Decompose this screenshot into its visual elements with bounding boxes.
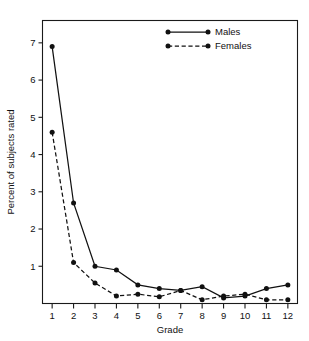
data-point-females-grade-3 xyxy=(93,281,98,286)
legend-marker-start-females xyxy=(166,44,171,49)
figure-container: 1234567 123456789101112 MalesFemales Gra… xyxy=(0,0,309,341)
series-line-females xyxy=(52,132,288,300)
data-point-females-grade-9 xyxy=(221,294,226,299)
data-series-group xyxy=(50,44,291,302)
x-axis-title: Grade xyxy=(157,324,183,335)
y-tick-label: 2 xyxy=(30,223,35,234)
y-axis-title: Percent of subjects rated xyxy=(5,109,16,214)
data-point-females-grade-5 xyxy=(135,292,140,297)
data-point-females-grade-6 xyxy=(157,294,162,299)
x-tick-label: 12 xyxy=(283,310,294,321)
data-point-females-grade-1 xyxy=(50,130,55,135)
data-point-females-grade-11 xyxy=(264,297,269,302)
x-tick-label: 8 xyxy=(199,310,204,321)
plot-frame xyxy=(43,21,298,304)
x-tick-label: 1 xyxy=(49,310,54,321)
data-point-females-grade-8 xyxy=(200,297,205,302)
legend-marker-end-females xyxy=(206,44,211,49)
x-axis-ticks xyxy=(52,304,288,309)
y-axis-ticks xyxy=(39,43,43,266)
y-tick-label: 6 xyxy=(30,74,35,85)
y-tick-label: 1 xyxy=(30,261,35,272)
data-point-females-grade-4 xyxy=(114,294,119,299)
data-point-females-grade-7 xyxy=(178,288,183,293)
y-tick-label: 5 xyxy=(30,112,35,123)
data-point-males-grade-2 xyxy=(71,200,76,205)
x-tick-label: 7 xyxy=(178,310,183,321)
y-tick-label: 4 xyxy=(30,149,35,160)
data-point-females-grade-12 xyxy=(285,297,290,302)
x-tick-label: 5 xyxy=(135,310,140,321)
data-point-males-grade-3 xyxy=(93,264,98,269)
series-line-males xyxy=(52,47,288,298)
y-tick-label: 7 xyxy=(30,37,35,48)
data-point-males-grade-1 xyxy=(50,44,55,49)
data-point-males-grade-11 xyxy=(264,286,269,291)
x-tick-label: 11 xyxy=(261,310,271,321)
y-tick-label: 3 xyxy=(30,186,35,197)
chart-legend: MalesFemales xyxy=(166,26,252,51)
data-point-males-grade-12 xyxy=(285,282,290,287)
y-axis-tick-labels: 1234567 xyxy=(30,37,35,271)
x-tick-label: 2 xyxy=(71,310,76,321)
x-tick-label: 10 xyxy=(240,310,251,321)
legend-label-females: Females xyxy=(215,40,252,51)
legend-marker-end-males xyxy=(206,30,211,35)
data-point-females-grade-2 xyxy=(71,260,76,265)
data-point-males-grade-6 xyxy=(157,286,162,291)
line-chart: 1234567 123456789101112 MalesFemales Gra… xyxy=(0,0,309,341)
data-point-females-grade-10 xyxy=(243,292,248,297)
legend-marker-start-males xyxy=(166,30,171,35)
data-point-males-grade-5 xyxy=(135,282,140,287)
legend-label-males: Males xyxy=(215,26,241,37)
x-tick-label: 4 xyxy=(114,310,119,321)
data-point-males-grade-8 xyxy=(200,284,205,289)
x-tick-label: 3 xyxy=(92,310,97,321)
x-tick-label: 9 xyxy=(221,310,226,321)
data-point-males-grade-4 xyxy=(114,267,119,272)
x-tick-label: 6 xyxy=(157,310,162,321)
x-axis-tick-labels: 123456789101112 xyxy=(49,310,293,321)
